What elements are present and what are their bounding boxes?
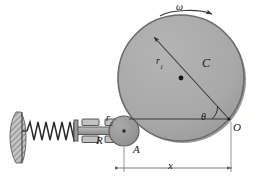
disc-center-dot: [179, 76, 184, 81]
label-r1: r1: [156, 56, 163, 68]
label-contact-point-A: A: [133, 144, 140, 155]
follower-roller: [109, 116, 139, 146]
mechanics-diagram-figure: ω r1 C θ O r2 R A x: [0, 0, 253, 183]
label-disc-C: C: [202, 57, 210, 69]
label-displacement-x: x: [168, 160, 173, 171]
diagram-canvas: [0, 0, 253, 183]
label-r2-subscript: 2: [110, 120, 113, 127]
label-rod-R: R: [96, 135, 103, 146]
label-omega: ω: [176, 2, 183, 12]
label-r2: r2: [106, 113, 113, 125]
compression-spring: [22, 122, 77, 140]
fixed-wall-support: [10, 112, 26, 163]
label-r1-subscript: 1: [160, 63, 163, 70]
label-theta: θ: [201, 112, 206, 122]
label-origin-O: O: [233, 122, 241, 133]
point-O-marker: [227, 117, 230, 120]
